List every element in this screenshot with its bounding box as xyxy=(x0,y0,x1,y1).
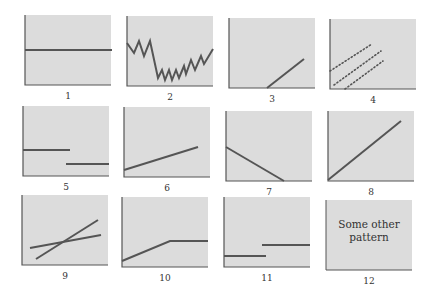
panel-text-line: Some other xyxy=(326,218,412,231)
pattern-panel-7 xyxy=(226,111,312,181)
panel-number-label: 10 xyxy=(122,273,208,283)
pattern-panel-10 xyxy=(122,197,208,267)
panel-graph xyxy=(224,197,310,267)
pattern-panel-8 xyxy=(328,111,414,181)
pattern-panel-5 xyxy=(23,106,109,176)
panel-number-label: 4 xyxy=(330,95,416,105)
pattern-panel-6 xyxy=(124,107,210,177)
pattern-panel-12: Some otherpattern xyxy=(326,200,412,270)
panel-number-label: 2 xyxy=(127,92,213,102)
panel-number-label: 9 xyxy=(22,271,108,281)
panel-number-label: 5 xyxy=(23,182,109,192)
pattern-panel-1 xyxy=(25,15,111,85)
panel-background xyxy=(229,18,315,88)
panel-graph xyxy=(226,111,312,181)
pattern-panel-3 xyxy=(229,18,315,88)
panel-graph xyxy=(22,195,108,265)
panel-graph xyxy=(330,19,416,89)
panel-number-label: 11 xyxy=(224,273,310,283)
panel-graph xyxy=(23,106,109,176)
pattern-panel-9 xyxy=(22,195,108,265)
panel-number-label: 3 xyxy=(229,94,315,104)
panel-graph xyxy=(25,15,111,85)
pattern-panel-2 xyxy=(127,16,213,86)
panel-number-label: 1 xyxy=(25,91,111,101)
panel-text: Some otherpattern xyxy=(326,218,412,244)
panel-number-label: 7 xyxy=(226,187,312,197)
panel-graph xyxy=(122,197,208,267)
panel-text-line: pattern xyxy=(326,231,412,244)
panel-graph xyxy=(328,111,414,181)
panel-number-label: 8 xyxy=(328,187,414,197)
panel-background xyxy=(22,195,108,265)
pattern-panel-4 xyxy=(330,19,416,89)
panel-graph xyxy=(124,107,210,177)
panel-graph xyxy=(229,18,315,88)
pattern-panel-11 xyxy=(224,197,310,267)
panel-number-label: 6 xyxy=(124,183,210,193)
panel-number-label: 12 xyxy=(326,276,412,286)
panel-background xyxy=(23,106,109,176)
panel-graph xyxy=(127,16,213,86)
panel-background xyxy=(226,111,312,181)
